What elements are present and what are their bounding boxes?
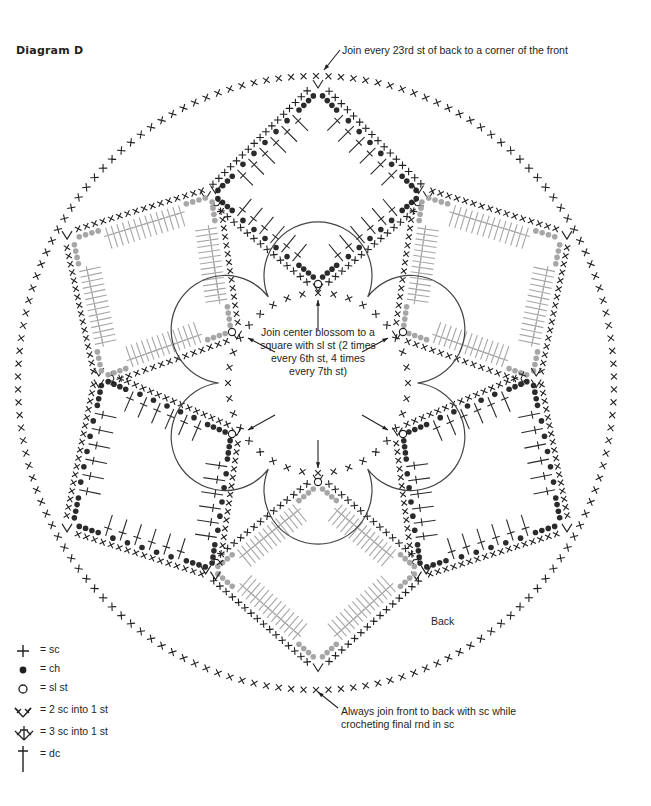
sl-st-join [399, 328, 406, 335]
three-sc-into-one-icon [12, 722, 38, 744]
diagram-title: Diagram D [16, 44, 83, 57]
legend-item-2sc: = 2 sc into 1 st [12, 700, 212, 720]
sl-st-join [314, 280, 321, 287]
sl-st-join [399, 430, 406, 437]
square-upper-right [392, 186, 572, 388]
two-sc-into-one-icon [12, 700, 38, 722]
legend-item-dc: = dc [12, 744, 212, 764]
bottom-join-note: Always join front to back with sc while … [341, 705, 561, 731]
dc-icon [12, 744, 38, 774]
sl-st-join [228, 430, 235, 437]
legend-item-sl-st: = sl st [12, 678, 212, 698]
square-lower-right [392, 368, 572, 580]
sl-st-join [314, 478, 321, 485]
square-upper-left [62, 186, 242, 388]
square-top [201, 80, 434, 292]
legend-item-ch: = ch [12, 659, 212, 679]
legend-item-sc: = sc [12, 640, 212, 660]
sl-st-circle-icon [12, 678, 38, 700]
legend-item-3sc: = 3 sc into 1 st [12, 722, 212, 742]
square-bottom [201, 475, 431, 672]
center-join-note: Join center blossom to a square with sl … [258, 326, 378, 378]
back-label: Back [431, 615, 454, 627]
sl-st-join [228, 328, 235, 335]
top-join-note: Join every 23rd st of back to a corner o… [342, 44, 568, 56]
square-lower-left [62, 368, 242, 580]
